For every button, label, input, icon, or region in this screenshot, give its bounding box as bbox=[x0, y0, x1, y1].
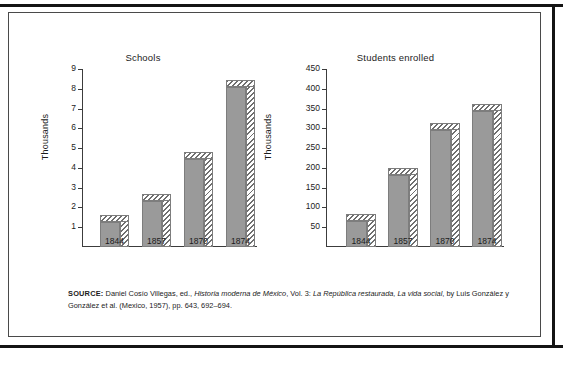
y-tick-label: 9 bbox=[71, 63, 76, 73]
x-axis-label-1874: 1874 bbox=[464, 236, 510, 246]
y-tick-label: 200 bbox=[306, 162, 320, 172]
plot-area-students: 50100150200250300350400450 bbox=[326, 69, 504, 247]
bar-students-1874 bbox=[472, 104, 502, 247]
bar-side-face bbox=[493, 107, 502, 247]
x-axis-label-1857: 1857 bbox=[134, 236, 179, 246]
bar-side-face bbox=[204, 156, 213, 248]
bar-schools-1874 bbox=[226, 80, 255, 247]
y-tick-label: 300 bbox=[306, 122, 320, 132]
y-axis-title-students: Thousands bbox=[263, 102, 273, 172]
y-tick-label: 2 bbox=[71, 201, 76, 211]
y-tick-label: 50 bbox=[311, 221, 320, 231]
chart-title-schools: Schools bbox=[58, 52, 228, 63]
bar-side-face bbox=[246, 83, 255, 247]
bar-top-face bbox=[184, 152, 213, 159]
source-label: SOURCE: bbox=[68, 289, 103, 298]
bar-front-face bbox=[430, 130, 451, 247]
source-title-2: La República restaurada, La vida social bbox=[313, 289, 442, 298]
x-axis-label-1844: 1844 bbox=[338, 236, 384, 246]
x-axis-label-1870: 1870 bbox=[422, 236, 468, 246]
page-rule-right bbox=[552, 4, 555, 348]
bar-side-face bbox=[451, 126, 460, 247]
y-tick-label: 3 bbox=[71, 182, 76, 192]
source-title-1: Historia moderna de México bbox=[194, 289, 286, 298]
bar-series-students bbox=[326, 69, 504, 247]
chart-title-students: Students enrolled bbox=[308, 52, 483, 63]
x-axis-label-1857: 1857 bbox=[380, 236, 426, 246]
bar-schools-1870 bbox=[184, 152, 213, 247]
y-tick-label: 250 bbox=[306, 142, 320, 152]
bar-top-face bbox=[100, 215, 129, 222]
source-text-2: , Vol. 3: bbox=[286, 289, 313, 298]
y-tick-label: 400 bbox=[306, 83, 320, 93]
page-rule-top bbox=[0, 4, 563, 7]
y-tick-label: 1 bbox=[71, 221, 76, 231]
y-tick-label: 5 bbox=[71, 142, 76, 152]
bar-top-face bbox=[388, 168, 418, 175]
y-tick-label: 4 bbox=[71, 162, 76, 172]
y-tick-label: 450 bbox=[306, 63, 320, 73]
x-axis-label-1844: 1844 bbox=[92, 236, 137, 246]
y-tick-label: 7 bbox=[71, 103, 76, 113]
bar-top-face bbox=[430, 123, 460, 130]
y-tick-label: 150 bbox=[306, 182, 320, 192]
y-axis-title-schools: Thousands bbox=[40, 102, 50, 172]
bar-front-face bbox=[226, 87, 246, 247]
source-note: SOURCE: Daniel Cosío Villegas, ed., Hist… bbox=[68, 288, 520, 311]
bar-top-face bbox=[346, 214, 376, 221]
y-tick-label: 6 bbox=[71, 122, 76, 132]
y-tick-label: 8 bbox=[71, 83, 76, 93]
y-tick-label: 100 bbox=[306, 201, 320, 211]
x-axis-label-1874: 1874 bbox=[218, 236, 263, 246]
source-text-1: Daniel Cosío Villegas, ed., bbox=[103, 289, 194, 298]
bar-series-schools bbox=[82, 69, 257, 247]
bar-top-face bbox=[226, 80, 255, 87]
bar-top-face bbox=[472, 104, 502, 111]
y-tick-label: 350 bbox=[306, 103, 320, 113]
page-rule-bottom bbox=[0, 345, 563, 348]
bar-front-face bbox=[184, 159, 204, 247]
bar-students-1870 bbox=[430, 123, 460, 247]
bar-top-face bbox=[142, 194, 171, 201]
x-axis-label-1870: 1870 bbox=[176, 236, 221, 246]
plot-area-schools: 123456789 bbox=[82, 69, 257, 247]
bar-front-face bbox=[472, 111, 493, 247]
